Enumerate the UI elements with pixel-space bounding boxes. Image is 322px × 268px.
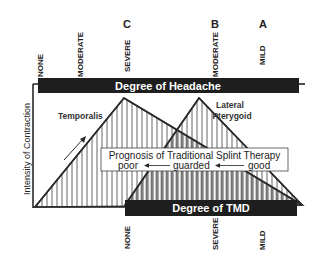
- headache-tick-moderate-left: MODERATE: [76, 31, 85, 77]
- tmd-bar-label: Degree of TMD: [172, 202, 250, 214]
- temporalis-label: Temporalis: [58, 111, 103, 121]
- stage-letter-b: B: [211, 18, 219, 30]
- prognosis-guarded: guarded: [173, 160, 210, 171]
- tmd-tick-none: NONE: [123, 225, 132, 249]
- tmd-tick-severe: SEVERE: [211, 217, 220, 250]
- tmd-scale-labels: NONE SEVERE MILD: [123, 217, 267, 250]
- prognosis-good: good: [248, 160, 270, 171]
- headache-scale-labels: NONE MODERATE SEVERE MODERATE MILD: [36, 31, 267, 77]
- tmd-bar: Degree of TMD: [125, 200, 297, 216]
- stage-letter-a: A: [259, 18, 267, 30]
- y-axis-label: Intensity of Contraction: [22, 103, 32, 195]
- prognosis-title: Prognosis of Traditional Splint Therapy: [109, 150, 281, 161]
- headache-tick-severe: SEVERE: [123, 39, 132, 72]
- headache-tick-mild: MILD: [258, 45, 267, 65]
- headache-tmd-diagram: NONE MODERATE SEVERE MODERATE MILD C B A…: [0, 0, 322, 268]
- tmd-tick-mild: MILD: [258, 230, 267, 250]
- lateral-pterygoid-label-line1: Lateral: [216, 100, 244, 110]
- lateral-pterygoid-label-line2: Pterygoid: [212, 111, 251, 121]
- prognosis-box: Prognosis of Traditional Splint Therapy …: [101, 148, 288, 171]
- prognosis-poor: poor: [118, 160, 139, 171]
- headache-tick-none: NONE: [36, 53, 45, 77]
- stage-letter-c: C: [123, 18, 131, 30]
- headache-tick-moderate-right: MODERATE: [211, 31, 220, 77]
- headache-bar-label: Degree of Headache: [115, 80, 221, 92]
- stage-letters: C B A: [123, 18, 267, 30]
- headache-bar: Degree of Headache: [38, 78, 305, 93]
